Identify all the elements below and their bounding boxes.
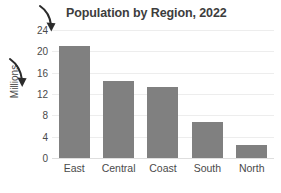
y-tick-label: 8 (24, 110, 48, 121)
chart-title: Population by Region, 2022 (66, 6, 227, 20)
bar-chart: Population by Region, 2022 Millions 0481… (0, 0, 281, 193)
x-axis-tick-labels: EastCentralCoastSouthNorth (52, 162, 274, 174)
x-tick-label-central: Central (96, 162, 140, 174)
bar-slot-south (185, 30, 229, 158)
bar-series (52, 30, 274, 158)
x-tick-label-coast: Coast (141, 162, 185, 174)
bar-north[interactable] (236, 145, 267, 158)
y-tick-label: 12 (24, 89, 48, 100)
bar-slot-east (52, 30, 96, 158)
y-tick-label: 4 (24, 131, 48, 142)
y-axis-tick-labels: 04812162024 (22, 30, 48, 158)
bar-slot-north (230, 30, 274, 158)
y-tick-label: 20 (24, 46, 48, 57)
gridline-0 (52, 158, 274, 159)
bar-slot-coast (141, 30, 185, 158)
x-tick-label-south: South (185, 162, 229, 174)
x-tick-label-east: East (52, 162, 96, 174)
bar-east[interactable] (59, 46, 90, 158)
x-tick-label-north: North (230, 162, 274, 174)
bar-south[interactable] (192, 122, 223, 158)
y-tick-label: 16 (24, 67, 48, 78)
y-tick-label: 24 (24, 25, 48, 36)
y-axis-title: Millions (9, 52, 20, 112)
y-tick-label: 0 (24, 153, 48, 164)
bar-coast[interactable] (147, 87, 178, 158)
bar-central[interactable] (103, 81, 134, 158)
bar-slot-central (96, 30, 140, 158)
